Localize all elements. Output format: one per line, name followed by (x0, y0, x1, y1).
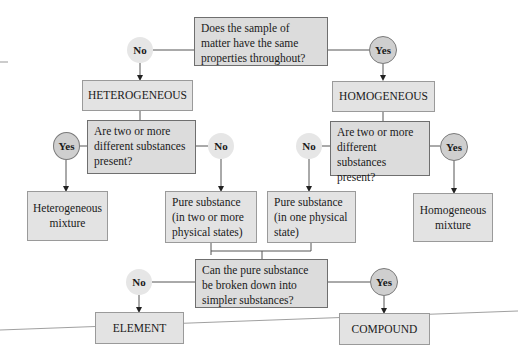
question-substances-right: Are two or more different substances pre… (330, 121, 430, 176)
answer-yes-circle: Yes (370, 268, 398, 296)
question-text: Are two or more different substances pre… (337, 126, 413, 183)
pure-substance-multi-state-box: Pure substance (in two or more physical … (165, 191, 257, 243)
answer-no-circle: No (126, 269, 152, 295)
result-label: Pure substance (in two or more physical … (172, 195, 252, 240)
answer-label: Yes (59, 140, 75, 152)
question-same-properties: Does the sample of matter have the same … (194, 17, 328, 66)
category-label: HOMOGENEOUS (339, 89, 428, 104)
answer-label: Yes (376, 276, 392, 288)
heterogeneous-mixture-box: Heterogeneous mixture (27, 191, 108, 241)
heterogeneous-box: HETEROGENEOUS (82, 80, 193, 111)
answer-label: No (133, 44, 146, 56)
homogeneous-box: HOMOGENEOUS (332, 81, 435, 112)
final-label: ELEMENT (113, 321, 167, 336)
answer-yes-circle: Yes (440, 133, 468, 161)
answer-label: Yes (375, 44, 391, 56)
compound-box: COMPOUND (339, 313, 430, 345)
answer-yes-circle: Yes (369, 36, 397, 64)
final-label: COMPOUND (352, 322, 418, 337)
question-substances-left: Are two or more different substances pre… (87, 120, 196, 174)
answer-yes-circle: Yes (53, 132, 80, 160)
pure-substance-single-state-box: Pure substance (in one physical state) (267, 191, 356, 243)
answer-no-circle: No (127, 37, 153, 63)
answer-label: No (302, 140, 315, 152)
question-broken-down: Can the pure substance be broken down in… (195, 259, 328, 308)
result-label: Homogeneous mixture (418, 203, 488, 233)
homogeneous-mixture-box: Homogeneous mixture (413, 193, 493, 242)
question-text: Can the pure substance be broken down in… (202, 264, 308, 306)
element-box: ELEMENT (95, 312, 184, 344)
answer-label: No (214, 140, 227, 152)
answer-no-circle: No (208, 133, 234, 159)
answer-no-circle: No (296, 133, 322, 159)
question-text: Does the sample of matter have the same … (201, 22, 305, 64)
result-label: Heterogeneous mixture (32, 201, 103, 231)
question-text: Are two or more different substances pre… (94, 125, 185, 167)
answer-label: Yes (446, 141, 462, 153)
result-label: Pure substance (in one physical state) (274, 195, 351, 240)
answer-label: No (132, 276, 145, 288)
category-label: HETEROGENEOUS (88, 88, 187, 103)
